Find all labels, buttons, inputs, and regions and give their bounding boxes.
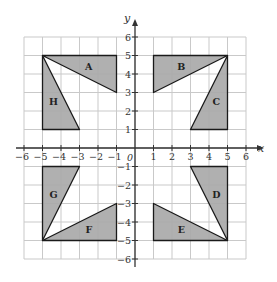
- y-tick-label: −6: [117, 254, 131, 265]
- triangle-label-g: G: [50, 189, 58, 200]
- x-tick-label: 5: [224, 151, 230, 162]
- x-tick-label: −4: [52, 151, 66, 162]
- y-tick-label: 2: [125, 106, 131, 117]
- y-tick-label: −3: [117, 198, 131, 209]
- y-tick-label: 6: [125, 32, 131, 43]
- y-axis-arrow-icon: [132, 19, 138, 26]
- y-tick-label: −5: [117, 235, 131, 246]
- y-tick-label: 3: [125, 87, 131, 98]
- y-tick-label: −4: [117, 217, 131, 228]
- y-tick-label: 1: [125, 124, 131, 135]
- x-tick-label: −2: [89, 151, 103, 162]
- y-tick-label: 4: [125, 69, 131, 80]
- y-axis-label: y: [123, 12, 131, 25]
- triangle-label-a: A: [84, 61, 93, 72]
- x-tick-label: 3: [187, 151, 193, 162]
- triangle-label-c: C: [213, 96, 221, 107]
- triangle-label-f: F: [85, 224, 92, 235]
- triangle-label-d: D: [212, 189, 220, 200]
- coordinate-grid-diagram: x y 0 ABCDEFGH−6−5−4−3−2−1123456654321−1…: [0, 0, 277, 282]
- y-tick-label: −1: [117, 161, 131, 172]
- x-tick-label: −5: [33, 151, 47, 162]
- x-tick-label: 2: [169, 151, 175, 162]
- x-tick-label: 1: [150, 151, 156, 162]
- x-tick-label: −3: [70, 151, 84, 162]
- triangle-label-h: H: [49, 96, 58, 107]
- x-axis-label: x: [258, 142, 265, 155]
- x-tick-label: −6: [15, 151, 29, 162]
- y-tick-label: 5: [125, 50, 131, 61]
- x-tick-label: 6: [243, 151, 249, 162]
- x-tick-label: 4: [206, 151, 212, 162]
- triangle-label-e: E: [178, 224, 185, 235]
- y-tick-label: −2: [117, 180, 131, 191]
- triangle-label-b: B: [177, 61, 185, 72]
